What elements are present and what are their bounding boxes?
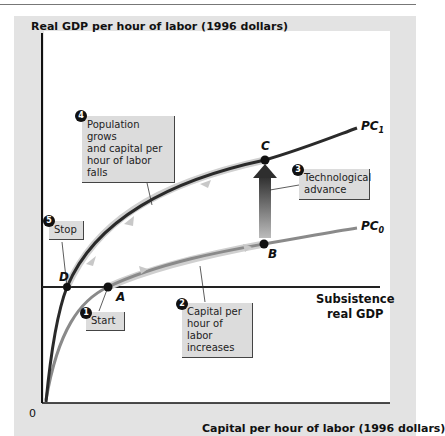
- y-axis-label: Real GDP per hour of labor (1996 dollars…: [31, 20, 288, 33]
- tech-arrow-head-icon: [253, 164, 277, 178]
- pc0-label-sub: 0: [379, 226, 385, 235]
- pc0-label-main: PC: [361, 219, 379, 233]
- x-axis-label: Capital per hour of labor (1996 dollars): [202, 422, 445, 435]
- callout-technological-advance: Technological advance: [299, 169, 370, 200]
- callout-population-grows: Population grows and capital per hour of…: [82, 116, 175, 183]
- callout-4-line1: Population grows: [87, 119, 169, 143]
- step-5-badge: 5: [43, 215, 55, 227]
- origin-label: 0: [29, 407, 36, 420]
- callout-start-text: Start: [91, 315, 115, 326]
- callout-capital-increases: Capital per hour of labor increases: [182, 303, 253, 358]
- subsistence-label: Subsistence real GDP: [316, 292, 394, 322]
- callout-3-line2: advance: [304, 184, 364, 196]
- leader-3: [270, 185, 299, 190]
- pc1-label-main: PC: [361, 119, 379, 133]
- point-b-label: B: [268, 247, 277, 261]
- arrow-pc1-1-icon: [200, 180, 211, 188]
- point-c: [261, 156, 270, 165]
- callout-4-line3: hour of labor falls: [87, 155, 169, 179]
- callout-3-line1: Technological: [304, 172, 364, 184]
- step-2-badge: 2: [176, 298, 188, 310]
- callout-start: Start: [86, 312, 125, 331]
- callout-2-line2: hour of labor: [187, 318, 247, 342]
- tech-arrow-shaft: [259, 176, 271, 238]
- callout-4-line2: and capital per: [87, 143, 169, 155]
- pc0-highlight: [108, 244, 264, 287]
- callout-2-line1: Capital per: [187, 306, 247, 318]
- point-d: [63, 283, 71, 291]
- point-a: [104, 283, 113, 292]
- step-4-badge: 4: [75, 110, 87, 122]
- step-3-badge: 3: [292, 164, 304, 176]
- step-1-badge: 1: [80, 307, 92, 319]
- point-c-label: C: [261, 139, 270, 153]
- subsistence-label-line2: real GDP: [316, 307, 394, 322]
- subsistence-label-line1: Subsistence: [316, 292, 394, 307]
- point-a-label: A: [116, 290, 125, 304]
- leader-2: [200, 266, 205, 302]
- point-d-label: D: [59, 270, 69, 284]
- callout-2-line3: increases: [187, 342, 247, 354]
- pc0-label: PC0: [361, 219, 384, 235]
- callout-stop-text: Stop: [54, 224, 77, 235]
- pc1-label-sub: 1: [379, 126, 385, 135]
- pc1-label: PC1: [361, 119, 384, 135]
- leader-4-hidden: [66, 156, 68, 205]
